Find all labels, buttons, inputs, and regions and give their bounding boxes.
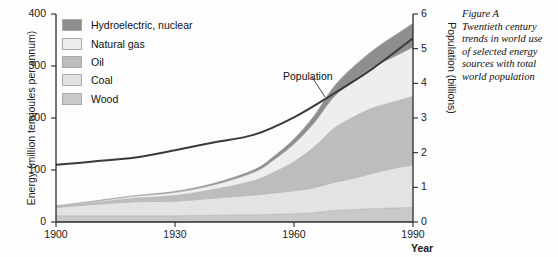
caption-line-2: Twentieth century (462, 21, 556, 34)
legend-item-hydroelectric-nuclear: Hydroelectric, nuclear (62, 16, 242, 34)
legend-item-oil: Oil (62, 53, 242, 71)
x-axis-title: Year (411, 242, 433, 254)
y2-tick-label-6: 6 (421, 7, 427, 19)
caption-line-5: sources with total (462, 58, 556, 71)
legend-swatch-natural-gas (62, 38, 82, 50)
x-tick-label-1900: 1900 (38, 228, 74, 240)
legend-swatch-wood (62, 93, 82, 105)
caption-line-4: of selected energy (462, 46, 556, 59)
y2-tick-label-2: 2 (421, 146, 427, 158)
y2-tick-label-1: 1 (421, 180, 427, 192)
y-axis-left-title: Energy (million terajoules per annum) (25, 23, 37, 213)
y2-tick-label-4: 4 (421, 76, 427, 88)
x-tick-label-1930: 1930 (157, 228, 193, 240)
x-tick-label-1960: 1960 (276, 228, 312, 240)
figure-container: 010020030040001234561900193019601990 Ene… (0, 0, 558, 257)
legend-swatch-oil (62, 56, 82, 68)
y2-tick-label-0: 0 (421, 215, 427, 227)
y2-tick-label-5: 5 (421, 42, 427, 54)
legend-swatch-coal (62, 74, 82, 86)
caption-line-1: Figure A (462, 8, 556, 21)
population-annotation: Population (283, 70, 333, 82)
y-tick-label-400: 400 (16, 7, 46, 19)
legend-swatch-hydroelectric-nuclear (62, 19, 82, 31)
x-tick-label-1990: 1990 (395, 228, 431, 240)
legend-label-coal: Coal (91, 74, 113, 86)
legend-label-hydroelectric-nuclear: Hydroelectric, nuclear (91, 19, 193, 31)
legend-item-wood: Wood (62, 90, 242, 108)
y2-tick-label-3: 3 (421, 111, 427, 123)
caption-line-3: trends in world use (462, 33, 556, 46)
legend-label-wood: Wood (91, 93, 118, 105)
figure-caption: Figure A Twentieth century trends in wor… (462, 8, 556, 84)
legend-label-natural-gas: Natural gas (91, 38, 145, 50)
y-tick-label-0: 0 (16, 215, 46, 227)
chart-legend: Hydroelectric, nuclear Natural gas Oil C… (62, 16, 242, 108)
caption-line-6: world population (462, 71, 556, 84)
legend-label-oil: Oil (91, 56, 104, 68)
y-axis-right-title: Population (billions) (446, 8, 458, 128)
legend-item-natural-gas: Natural gas (62, 34, 242, 52)
legend-item-coal: Coal (62, 71, 242, 89)
